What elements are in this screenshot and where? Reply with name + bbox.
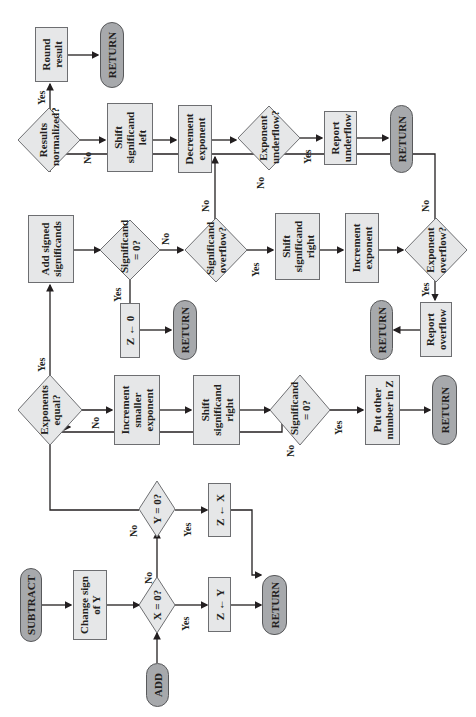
edge-label-no: No bbox=[285, 445, 296, 457]
significand-zero-decision-2: Significand = 0? bbox=[100, 220, 160, 280]
z-gets-x-process: Z ← X bbox=[208, 483, 231, 537]
results-normalized-decision: Results normalized? bbox=[18, 108, 80, 172]
y-zero-decision: Y = 0? bbox=[139, 481, 175, 537]
edge-label-no: No bbox=[255, 177, 266, 189]
z-gets-x-label: Z ← X bbox=[214, 494, 226, 526]
subtract-terminal: SUBTRACT bbox=[20, 568, 42, 642]
edge-label-yes: Yes bbox=[420, 283, 431, 297]
edge-label-yes: Yes bbox=[250, 263, 261, 277]
significand-zero-label-2: Significand = 0? bbox=[118, 227, 142, 273]
change-sign-process: Change sign of Y bbox=[73, 570, 107, 640]
add-signed-label: Add signed significands bbox=[39, 219, 63, 279]
edge-label-yes: Yes bbox=[302, 150, 313, 164]
report-overflow-process: Report overflow bbox=[420, 302, 452, 357]
shift-left-label: Shift significand left bbox=[112, 108, 148, 168]
edge-label-no: No bbox=[420, 200, 431, 212]
edge-label-no: No bbox=[82, 152, 93, 164]
return-label: RETURN bbox=[269, 582, 281, 628]
significand-overflow-decision: Significand overflow? bbox=[185, 218, 247, 282]
edge-label-no: No bbox=[90, 417, 101, 429]
increment-exponent-process: Increment exponent bbox=[345, 213, 379, 283]
return-label: RETURN bbox=[396, 116, 408, 162]
edge-label-no: No bbox=[128, 525, 139, 537]
z-gets-y-process: Z ← Y bbox=[208, 577, 231, 632]
return-label: RETURN bbox=[106, 32, 118, 78]
x-zero-decision: X = 0? bbox=[139, 577, 175, 633]
results-normalized-label: Results normalized? bbox=[37, 114, 61, 166]
significand-overflow-label: Significand overflow? bbox=[204, 225, 228, 275]
subtract-label: SUBTRACT bbox=[25, 575, 37, 635]
edge-label-no: No bbox=[200, 200, 211, 212]
increment-smaller-label: Increment smaller exponent bbox=[119, 380, 155, 440]
change-sign-label: Change sign of Y bbox=[78, 571, 102, 639]
round-result-label: Round result bbox=[40, 32, 64, 78]
report-overflow-label: Report overflow bbox=[424, 305, 448, 355]
edge-label-yes: Yes bbox=[333, 421, 344, 435]
return-terminal-2: RETURN bbox=[432, 375, 457, 445]
edge-label-yes: Yes bbox=[112, 288, 123, 302]
significand-zero-label-1: Significand = 0? bbox=[288, 385, 312, 435]
return-terminal-4: RETURN bbox=[370, 300, 393, 360]
z-gets-zero-label: Z ← 0 bbox=[124, 316, 136, 345]
flowchart-canvas: ADD SUBTRACT Change sign of Y X = 0? Z ←… bbox=[0, 0, 476, 717]
decrement-exponent-process: Decrement exponent bbox=[178, 105, 212, 173]
y-zero-label: Y = 0? bbox=[151, 494, 163, 524]
edge-label-yes: Yes bbox=[180, 617, 191, 631]
increment-exponent-label: Increment exponent bbox=[350, 218, 374, 278]
decrement-exponent-label: Decrement exponent bbox=[183, 109, 207, 169]
exponent-underflow-decision: Exponent underflow? bbox=[238, 106, 300, 170]
report-underflow-process: Report underflow bbox=[324, 111, 357, 165]
edge-label-yes: Yes bbox=[36, 91, 47, 105]
x-zero-label: X = 0? bbox=[151, 590, 163, 621]
edge-label-yes: Yes bbox=[36, 358, 47, 372]
return-label: RETURN bbox=[376, 307, 388, 353]
put-other-label: Put other number in Z bbox=[371, 378, 395, 442]
edge-label-no: No bbox=[160, 233, 171, 245]
exponent-overflow-decision: Exponent overflow? bbox=[405, 218, 467, 282]
return-terminal-1: RETURN bbox=[262, 575, 287, 635]
add-label: ADD bbox=[152, 673, 164, 697]
return-terminal-5: RETURN bbox=[100, 22, 124, 88]
shift-significand-left-process: Shift significand left bbox=[107, 103, 153, 172]
put-other-number-process: Put other number in Z bbox=[365, 375, 400, 445]
add-terminal: ADD bbox=[146, 663, 169, 707]
increment-smaller-exponent-process: Increment smaller exponent bbox=[114, 375, 160, 445]
shift-right-label-1: Shift significand right bbox=[199, 380, 235, 440]
exponent-underflow-label: Exponent underflow? bbox=[257, 112, 281, 164]
shift-significand-right-process-2: Shift significand right bbox=[275, 213, 320, 280]
round-result-process: Round result bbox=[35, 27, 68, 82]
exponent-overflow-label: Exponent overflow? bbox=[424, 225, 448, 275]
return-label: RETURN bbox=[179, 307, 191, 353]
add-signed-significands-process: Add signed significands bbox=[28, 215, 74, 283]
return-label: RETURN bbox=[439, 387, 451, 433]
return-terminal-6: RETURN bbox=[390, 105, 413, 173]
exponents-equal-decision: Exponents equal? bbox=[18, 375, 82, 445]
report-underflow-label: Report underflow bbox=[329, 113, 353, 163]
shift-right-label-2: Shift significand right bbox=[280, 217, 316, 277]
edge-label-no: No bbox=[143, 572, 154, 584]
edge-label-yes: Yes bbox=[182, 523, 193, 537]
significand-zero-decision-1: Significand = 0? bbox=[270, 375, 330, 445]
exponents-equal-label: Exponents equal? bbox=[38, 385, 62, 435]
shift-significand-right-process-1: Shift significand right bbox=[193, 375, 240, 445]
z-gets-zero-process: Z ← 0 bbox=[120, 303, 140, 358]
z-gets-y-label: Z ← Y bbox=[214, 589, 226, 620]
return-terminal-3: RETURN bbox=[173, 300, 197, 360]
